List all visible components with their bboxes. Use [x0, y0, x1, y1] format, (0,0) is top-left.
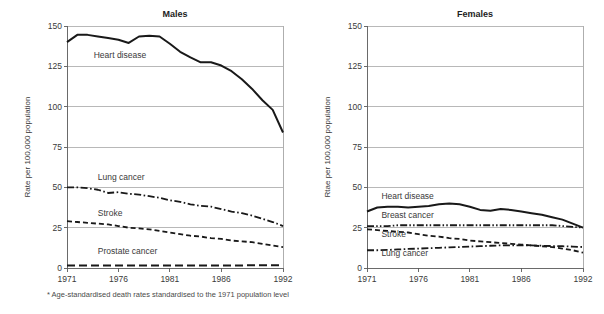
ytick-label-125: 125 — [348, 61, 362, 71]
series-label-breast-cancer-1: Breast cancer — [381, 210, 434, 220]
xtick-label-1981: 1981 — [460, 274, 479, 284]
xtick-label-1986: 1986 — [512, 274, 531, 284]
series-label-heart-disease-0: Heart disease — [94, 50, 147, 60]
xtick-label-1986: 1986 — [212, 274, 231, 284]
mortality-trends-figure: MalesRate per 100,000 population02550751… — [0, 0, 604, 314]
series-label-prostate-cancer-0: Prostate cancer — [98, 246, 158, 256]
ytick-label-50: 50 — [53, 182, 63, 192]
ytick-label-0: 0 — [357, 263, 362, 273]
xtick-label-1971: 1971 — [58, 274, 77, 284]
ytick-label-25: 25 — [53, 223, 63, 233]
xtick-label-1971: 1971 — [358, 274, 377, 284]
chart-panel-males: MalesRate per 100,000 population02550751… — [23, 9, 293, 284]
ytick-label-125: 125 — [48, 61, 62, 71]
ytick-label-0: 0 — [57, 263, 62, 273]
figure-footnote: * Age-standardised death rates standardi… — [47, 290, 289, 299]
ytick-label-150: 150 — [48, 21, 62, 31]
y-gridlines-0 — [64, 26, 283, 268]
series-line-breast-cancer-1 — [367, 225, 583, 227]
ytick-label-25: 25 — [353, 223, 363, 233]
xtick-label-1992: 1992 — [274, 274, 293, 284]
panel-title-1: Females — [457, 9, 493, 19]
ytick-label-75: 75 — [353, 142, 363, 152]
panel-title-0: Males — [162, 9, 187, 19]
series-label-lung-cancer-0: Lung cancer — [98, 172, 145, 182]
y-axis-label-0: Rate per 100,000 population — [23, 97, 32, 198]
series-line-stroke-0 — [67, 221, 283, 247]
ytick-label-75: 75 — [53, 142, 63, 152]
xtick-label-1992: 1992 — [574, 274, 593, 284]
series-label-heart-disease-1: Heart disease — [381, 191, 434, 201]
xtick-label-1981: 1981 — [160, 274, 179, 284]
xtick-label-1976: 1976 — [109, 274, 128, 284]
xtick-label-1976: 1976 — [409, 274, 428, 284]
ytick-label-50: 50 — [353, 182, 363, 192]
series-label-stroke-1: Stroke — [381, 229, 406, 239]
series-label-stroke-0: Stroke — [98, 208, 123, 218]
chart-panel-females: FemalesRtae per 100,000 population025507… — [323, 9, 593, 284]
ytick-label-150: 150 — [348, 21, 362, 31]
series-label-lung-cancer-1: Lung cancer — [381, 248, 428, 258]
ytick-label-100: 100 — [48, 102, 62, 112]
ytick-label-100: 100 — [348, 102, 362, 112]
y-axis-label-1: Rtae per 100,000 population — [323, 97, 332, 198]
